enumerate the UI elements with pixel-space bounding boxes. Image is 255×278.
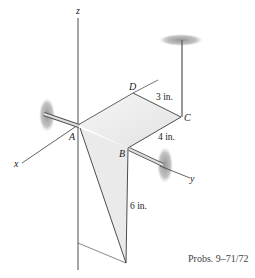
- bearing-c: [159, 34, 203, 46]
- z-axis-label: z: [75, 5, 80, 16]
- y-axis-label: y: [189, 173, 195, 184]
- point-b-label: B: [119, 148, 125, 159]
- figure-caption: Probs. 9–71/72: [188, 253, 249, 264]
- point-c-label: C: [184, 112, 191, 123]
- d-extension: [133, 80, 158, 93]
- x-axis-label: x: [13, 158, 19, 169]
- point-d-label: D: [128, 81, 137, 92]
- dimension-vertical: 6 in.: [130, 201, 147, 211]
- dimension-dc: 3 in.: [156, 92, 173, 102]
- projection-line: [78, 243, 126, 263]
- dimension-cb: 4 in.: [158, 132, 175, 142]
- point-a-label: A: [68, 131, 76, 142]
- diagram-figure: z x y A B C D 3 in. 4 in. 6 in. Probs. 9…: [0, 0, 255, 278]
